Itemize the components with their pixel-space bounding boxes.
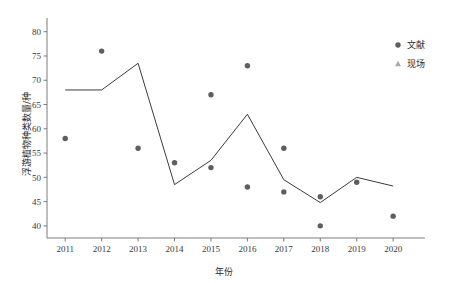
data-point-field — [208, 58, 211, 61]
literature-series-markers — [63, 48, 396, 228]
data-point-field — [354, 168, 357, 171]
data-point-literature — [390, 213, 395, 218]
data-point-literature — [245, 184, 250, 189]
x-tick-label: 2017 — [275, 244, 294, 254]
x-tick-label: 2012 — [93, 244, 111, 254]
legend-label: 现场 — [407, 59, 425, 69]
data-point-field — [62, 77, 65, 80]
y-tick-label: 60 — [32, 124, 42, 134]
y-tick-label: 45 — [32, 197, 42, 207]
x-tick-label: 2014 — [166, 244, 185, 254]
legend-marker-triangle — [395, 61, 401, 67]
x-tick-label: 2020 — [384, 244, 403, 254]
data-point-literature — [281, 146, 286, 151]
data-point-literature — [172, 160, 177, 165]
data-point-literature — [245, 63, 250, 68]
x-tick-label: 2011 — [56, 244, 74, 254]
field-series-markers — [62, 58, 393, 201]
y-axis-ticks: 404550556065707580 — [32, 27, 47, 231]
data-point-field — [317, 183, 320, 186]
x-tick-label: 2018 — [311, 244, 330, 254]
data-point-literature — [63, 136, 68, 141]
legend-marker-circle — [395, 42, 400, 47]
x-axis-title: 年份 — [215, 266, 233, 277]
chart-legend: 文献现场 — [395, 39, 425, 69]
scatter-line-chart: 404550556065707580 201120122013201420152… — [0, 0, 449, 283]
data-point-literature — [318, 194, 323, 199]
data-point-field — [390, 154, 393, 157]
trend-line-series — [65, 63, 393, 202]
y-tick-label: 75 — [32, 51, 42, 61]
y-tick-label: 55 — [32, 148, 42, 158]
y-tick-label: 65 — [32, 100, 42, 110]
y-tick-label: 80 — [32, 27, 42, 37]
chart-container: 404550556065707580 201120122013201420152… — [0, 0, 449, 283]
trend-line-path — [65, 63, 393, 202]
legend-label: 文献 — [407, 39, 425, 50]
y-tick-label: 70 — [32, 75, 42, 85]
data-point-field — [281, 197, 284, 200]
y-axis-title: 浮游植物种类数量/种 — [21, 92, 32, 176]
x-axis-ticks: 2011201220132014201520162017201820192020 — [56, 238, 402, 254]
data-point-literature — [354, 179, 359, 184]
data-point-literature — [99, 48, 104, 53]
x-tick-label: 2016 — [238, 244, 257, 254]
data-point-literature — [208, 165, 213, 170]
x-tick-label: 2013 — [129, 244, 148, 254]
x-tick-label: 2019 — [348, 244, 367, 254]
data-point-literature — [318, 223, 323, 228]
data-point-literature — [208, 92, 213, 97]
x-tick-label: 2015 — [202, 244, 221, 254]
y-tick-label: 40 — [32, 221, 42, 231]
data-point-literature — [135, 146, 140, 151]
data-point-literature — [281, 189, 286, 194]
y-tick-label: 50 — [32, 173, 42, 183]
data-point-field — [244, 87, 247, 90]
